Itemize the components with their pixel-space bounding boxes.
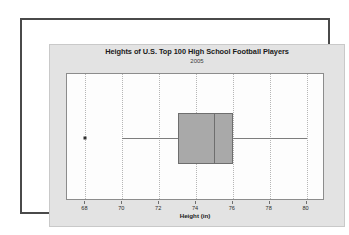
chart-page: Heights of U.S. Top 100 High School Foot… bbox=[0, 0, 349, 235]
tick-68 bbox=[84, 201, 85, 204]
tick-label-72: 72 bbox=[155, 205, 161, 211]
tick-72 bbox=[158, 201, 159, 204]
tick-label-68: 68 bbox=[81, 205, 87, 211]
tick-label-70: 70 bbox=[118, 205, 124, 211]
tick-label-76: 76 bbox=[229, 205, 235, 211]
tick-label-80: 80 bbox=[302, 205, 308, 211]
outer-frame: Heights of U.S. Top 100 High School Foot… bbox=[20, 18, 330, 214]
whisker-lower bbox=[122, 138, 177, 139]
gridline-76 bbox=[233, 74, 234, 199]
outlier-point bbox=[84, 137, 87, 140]
plot-panel bbox=[66, 73, 324, 200]
gridline-70 bbox=[122, 74, 123, 199]
gridline-78 bbox=[270, 74, 271, 199]
tick-70 bbox=[121, 201, 122, 204]
tick-label-78: 78 bbox=[266, 205, 272, 211]
chart-subtitle: 2005 bbox=[49, 57, 345, 66]
x-axis-title: Height (in) bbox=[66, 212, 324, 219]
median-line bbox=[214, 113, 215, 164]
title-block: Heights of U.S. Top 100 High School Foot… bbox=[49, 47, 345, 73]
gridline-80 bbox=[307, 74, 308, 199]
tick-78 bbox=[269, 201, 270, 204]
tick-76 bbox=[232, 201, 233, 204]
box-iqr bbox=[178, 113, 233, 164]
tick-80 bbox=[306, 201, 307, 204]
gridline-72 bbox=[159, 74, 160, 199]
tick-74 bbox=[195, 201, 196, 204]
chart-title: Heights of U.S. Top 100 High School Foot… bbox=[49, 47, 345, 57]
whisker-upper bbox=[233, 138, 307, 139]
tick-label-74: 74 bbox=[192, 205, 198, 211]
